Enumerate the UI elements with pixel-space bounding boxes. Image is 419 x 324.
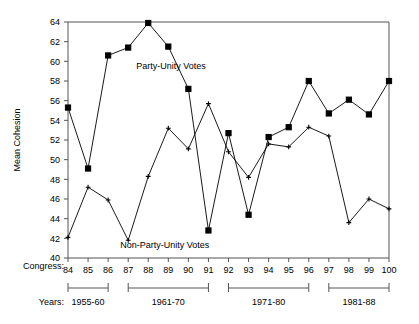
data-point-marker bbox=[146, 20, 151, 25]
data-point-marker bbox=[226, 131, 231, 136]
x-tick-label: 99 bbox=[364, 265, 374, 275]
data-point-marker bbox=[266, 134, 271, 139]
y-tick-label: 44 bbox=[50, 214, 60, 224]
data-point-marker bbox=[66, 235, 71, 240]
data-point-marker bbox=[286, 125, 291, 130]
x-tick-label: 93 bbox=[244, 265, 254, 275]
era-label: 1961-70 bbox=[152, 297, 185, 307]
data-point-marker bbox=[106, 198, 111, 203]
era-bracket bbox=[229, 283, 309, 292]
plot-frame bbox=[68, 22, 389, 258]
y-tick-label: 56 bbox=[50, 96, 60, 106]
era-label: 1955-60 bbox=[72, 297, 105, 307]
data-point-marker bbox=[146, 174, 151, 179]
data-point-marker bbox=[326, 111, 331, 116]
y-tick-label: 60 bbox=[50, 57, 60, 67]
data-point-marker bbox=[246, 212, 251, 217]
data-point-marker bbox=[386, 78, 391, 83]
data-point-marker bbox=[206, 228, 211, 233]
y-tick-label: 50 bbox=[50, 155, 60, 165]
data-point-marker bbox=[186, 86, 191, 91]
chart-container: Mean Cohesion 40424446485052545658606264… bbox=[0, 0, 419, 324]
data-point-marker bbox=[366, 112, 371, 117]
era-label: 1981-88 bbox=[342, 297, 375, 307]
data-point-marker bbox=[126, 45, 131, 50]
party-unity-label: Party-Unity Votes bbox=[136, 61, 206, 71]
x-tick-label: 85 bbox=[83, 265, 93, 275]
series-2 bbox=[66, 101, 392, 242]
data-point-marker bbox=[166, 44, 171, 49]
y-tick-label: 48 bbox=[50, 175, 60, 185]
y-tick-label: 52 bbox=[50, 135, 60, 145]
x-tick-label: 91 bbox=[203, 265, 213, 275]
y-tick-label: 54 bbox=[50, 116, 60, 126]
data-point-marker bbox=[206, 101, 211, 106]
x-axis-ticks: 84858687888990919293949596979899100 bbox=[63, 258, 397, 275]
era-brackets: 1955-601961-701971-801981-88 bbox=[68, 283, 389, 307]
x-tick-label: 96 bbox=[304, 265, 314, 275]
data-point-marker bbox=[387, 206, 392, 211]
x-tick-label: 86 bbox=[103, 265, 113, 275]
era-bracket bbox=[68, 283, 108, 292]
series-1 bbox=[65, 20, 391, 233]
x-tick-label: 100 bbox=[381, 265, 396, 275]
x-tick-label: 94 bbox=[264, 265, 274, 275]
y-tick-label: 58 bbox=[50, 76, 60, 86]
y-tick-label: 42 bbox=[50, 234, 60, 244]
data-point-marker bbox=[65, 105, 70, 110]
era-bracket bbox=[329, 283, 389, 292]
mean-cohesion-line-chart: Mean Cohesion 40424446485052545658606264… bbox=[0, 0, 419, 324]
data-point-marker bbox=[326, 134, 331, 139]
series-layer bbox=[65, 20, 391, 242]
y-axis-title: Mean Cohesion bbox=[12, 108, 22, 171]
x-tick-label: 97 bbox=[324, 265, 334, 275]
y-axis-title-text: Mean Cohesion bbox=[12, 108, 22, 171]
y-tick-label: 46 bbox=[50, 194, 60, 204]
series-polyline bbox=[68, 23, 389, 230]
years-row-label: Years: bbox=[39, 297, 64, 307]
data-point-marker bbox=[346, 97, 351, 102]
congress-row-label: Congress: bbox=[23, 261, 64, 271]
data-point-marker bbox=[86, 185, 91, 190]
x-tick-label: 90 bbox=[183, 265, 193, 275]
x-tick-label: 98 bbox=[344, 265, 354, 275]
x-tick-label: 92 bbox=[223, 265, 233, 275]
series-polyline bbox=[68, 104, 389, 241]
era-label: 1971-80 bbox=[252, 297, 285, 307]
x-tick-label: 87 bbox=[123, 265, 133, 275]
non-party-unity-label: Non-Party-Unity Votes bbox=[120, 240, 210, 250]
data-point-marker bbox=[306, 78, 311, 83]
era-bracket bbox=[128, 283, 208, 292]
y-tick-label: 64 bbox=[50, 17, 60, 27]
x-tick-label: 88 bbox=[143, 265, 153, 275]
x-tick-label: 95 bbox=[284, 265, 294, 275]
y-axis-ticks: 40424446485052545658606264 bbox=[50, 17, 68, 263]
data-point-marker bbox=[106, 53, 111, 58]
x-tick-label: 84 bbox=[63, 265, 73, 275]
data-point-marker bbox=[85, 166, 90, 171]
y-tick-label: 62 bbox=[50, 37, 60, 47]
x-tick-label: 89 bbox=[163, 265, 173, 275]
plot-border bbox=[68, 22, 389, 258]
